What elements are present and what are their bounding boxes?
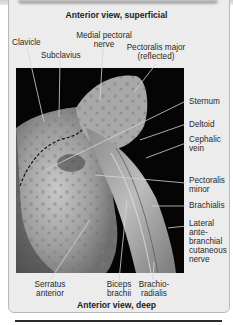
label-line: Medial pectoral — [74, 31, 134, 40]
label-line: Lateral — [189, 219, 227, 228]
label-clavicle: Clavicle — [12, 38, 41, 47]
label-line: minor — [189, 185, 225, 194]
label-line: Serratus — [30, 280, 70, 289]
label-sternum: Sternum — [189, 97, 220, 106]
label-brachialis: Brachialis — [189, 201, 225, 210]
label-line: Biceps — [102, 280, 136, 289]
label-brachioradialis: Brachio- radialis — [136, 280, 172, 298]
dissection-photo — [16, 68, 184, 273]
label-line: (reflected) — [124, 52, 188, 61]
label-line: Pectoralis — [189, 176, 225, 185]
label-pectoralis-minor: Pectoralis minor — [189, 176, 225, 194]
label-line: Brachio- — [136, 280, 172, 289]
label-line: anterior — [30, 289, 70, 298]
top-caption: Anterior view, superficial — [0, 10, 233, 20]
label-line: cutaneous — [189, 246, 227, 255]
dissection-image — [16, 68, 184, 273]
label-line: vein — [189, 144, 221, 153]
horizontal-rule — [15, 320, 222, 322]
label-line: Cephalic — [189, 135, 221, 144]
label-line: branchial — [189, 237, 227, 246]
label-subclavius: Subclavius — [41, 51, 81, 60]
previous-panel-edge — [18, 0, 218, 4]
label-line: Pectoralis major — [124, 43, 188, 52]
bottom-caption: Anterior view, deep — [0, 300, 233, 310]
label-line: radialis — [136, 289, 172, 298]
label-line: nerve — [189, 255, 227, 264]
label-serratus-anterior: Serratus anterior — [30, 280, 70, 298]
label-pectoralis-major: Pectoralis major (reflected) — [124, 43, 188, 61]
label-line: brachii — [102, 289, 136, 298]
label-deltoid: Deltoid — [189, 120, 215, 129]
label-biceps-brachii: Biceps brachii — [102, 280, 136, 298]
label-lateral-antebrachial-cutaneous-nerve: Lateral ante- branchial cutaneous nerve — [189, 219, 227, 264]
label-line: ante- — [189, 228, 227, 237]
label-cephalic-vein: Cephalic vein — [189, 135, 221, 153]
